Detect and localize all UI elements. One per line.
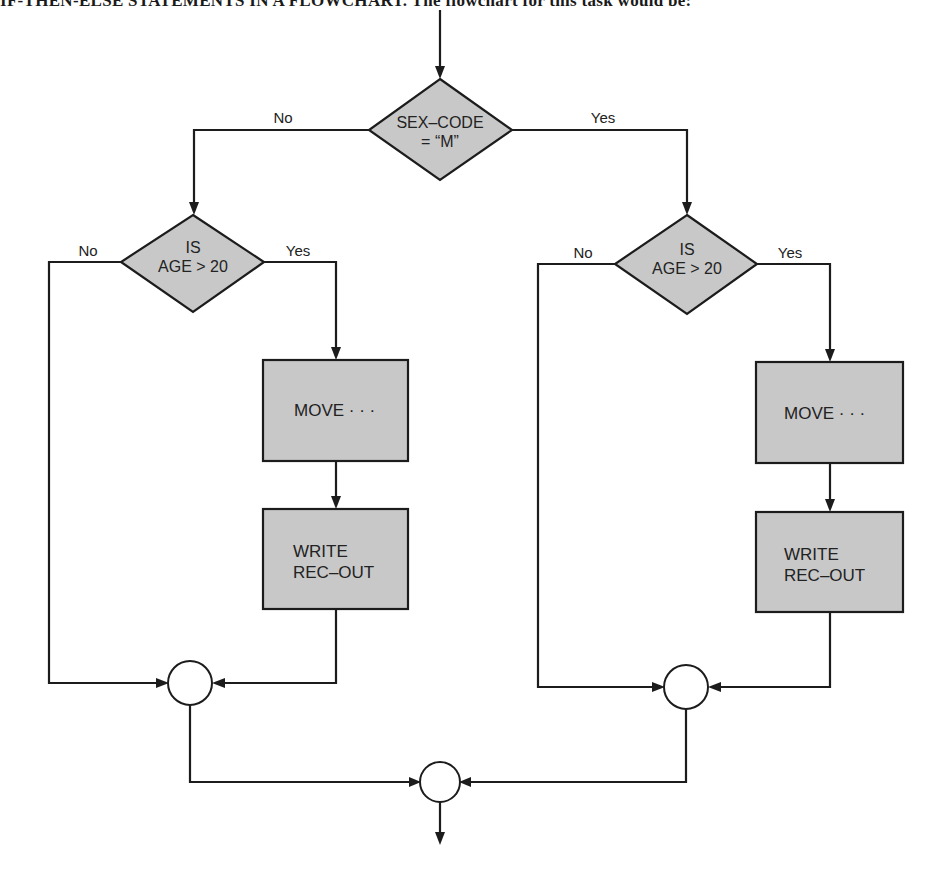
- left-decision-line1: IS: [185, 239, 200, 256]
- left-yes-label: Yes: [286, 242, 310, 259]
- flowchart: SEX–CODE = “M” No Yes IS AGE > 20 Yes MO…: [0, 0, 945, 889]
- right-join-connector: [664, 665, 708, 709]
- decision-sex-code-line1: SEX–CODE: [396, 114, 483, 131]
- left-decision-age: IS AGE > 20: [121, 215, 264, 312]
- left-no-path: No: [49, 242, 169, 688]
- right-join-to-final: [459, 709, 686, 787]
- top-no-label: No: [273, 109, 292, 126]
- left-write-line1: WRITE: [293, 542, 348, 561]
- left-yes-path: Yes: [264, 242, 341, 360]
- final-join-connector: [420, 762, 460, 802]
- exit-arrow: [435, 802, 445, 845]
- top-yes-label: Yes: [591, 109, 615, 126]
- left-join-to-final: [190, 705, 421, 787]
- left-move-box: MOVE · · ·: [263, 360, 408, 461]
- left-write-box: WRITE REC–OUT: [263, 509, 408, 609]
- left-write-to-join: [212, 609, 336, 688]
- right-write-line1: WRITE: [784, 545, 839, 564]
- right-no-label: No: [573, 244, 592, 261]
- right-move-to-write-arrow: [825, 463, 835, 512]
- right-decision-line1: IS: [679, 241, 694, 258]
- decision-sex-code: SEX–CODE = “M”: [369, 79, 512, 180]
- right-yes-path: Yes: [757, 244, 835, 362]
- left-join-connector: [168, 661, 212, 705]
- left-no-label: No: [78, 242, 97, 259]
- right-no-path: No: [538, 244, 665, 692]
- left-write-line2: REC–OUT: [293, 563, 374, 582]
- top-yes-branch: Yes: [512, 109, 692, 215]
- top-no-branch: No: [189, 109, 369, 215]
- right-decision-line2: AGE > 20: [652, 260, 722, 277]
- right-move-label: MOVE · · ·: [784, 404, 865, 423]
- left-decision-line2: AGE > 20: [158, 258, 228, 275]
- entry-arrow: [435, 10, 445, 79]
- right-write-to-join: [708, 612, 830, 692]
- left-move-label: MOVE · · ·: [294, 401, 375, 420]
- right-yes-label: Yes: [778, 244, 802, 261]
- decision-sex-code-line2: = “M”: [421, 133, 459, 150]
- right-move-box: MOVE · · ·: [756, 362, 903, 463]
- right-decision-age: IS AGE > 20: [615, 215, 757, 314]
- right-write-box: WRITE REC–OUT: [756, 512, 903, 612]
- right-write-line2: REC–OUT: [784, 566, 865, 585]
- left-move-to-write-arrow: [331, 461, 341, 509]
